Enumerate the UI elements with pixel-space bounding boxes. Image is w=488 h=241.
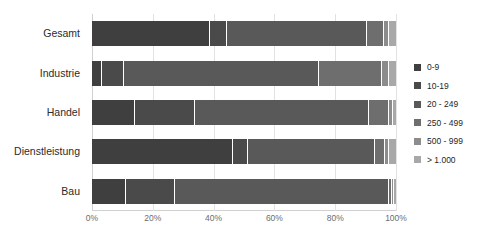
bar-segment — [210, 21, 227, 46]
bar-row — [92, 21, 396, 46]
legend-item[interactable]: > 1.000 — [414, 151, 488, 170]
bar-row — [92, 139, 396, 164]
value-axis: 0%20%40%60%80%100% — [92, 214, 396, 230]
legend-swatch-icon — [414, 156, 421, 163]
bar-segment — [382, 61, 389, 86]
legend-swatch-icon — [414, 82, 421, 89]
legend-swatch-icon — [414, 119, 421, 126]
x-axis-tick-label: 100% — [385, 214, 407, 223]
bar-segment — [135, 100, 195, 125]
bar-segment — [92, 179, 126, 204]
bar-segment — [375, 139, 385, 164]
bar-segment — [367, 21, 384, 46]
bar-segment — [319, 61, 382, 86]
legend-item[interactable]: 500 - 999 — [414, 132, 488, 151]
legend-item[interactable]: 10-19 — [414, 77, 488, 96]
category-label: Industrie — [0, 68, 80, 79]
legend-label: 10-19 — [427, 82, 449, 91]
legend-label: > 1.000 — [427, 156, 456, 165]
bar-segment — [233, 139, 248, 164]
bar-segment — [393, 100, 396, 125]
bar-segment — [389, 139, 396, 164]
category-label: Bau — [0, 186, 80, 197]
legend-item[interactable]: 20 - 249 — [414, 95, 488, 114]
category-label: Dienstleistung — [0, 146, 80, 157]
bar-row — [92, 100, 396, 125]
x-axis-tick-label: 20% — [144, 214, 161, 223]
legend-label: 250 - 499 — [427, 119, 463, 128]
x-axis-tick-label: 60% — [266, 214, 283, 223]
bar-segment — [92, 61, 102, 86]
plot-area — [92, 14, 396, 211]
bar-segment — [92, 139, 233, 164]
x-axis-tick-label: 80% — [327, 214, 344, 223]
legend-label: 500 - 999 — [427, 137, 463, 146]
gridline — [396, 14, 397, 211]
stacked-bar-chart: GesamtIndustrieHandelDienstleistungBau 0… — [0, 0, 488, 241]
legend-swatch-icon — [414, 101, 421, 108]
legend-swatch-icon — [414, 64, 421, 71]
bar-segment — [92, 21, 210, 46]
legend-swatch-icon — [414, 138, 421, 145]
x-axis-tick-label: 0% — [86, 214, 98, 223]
bar-row — [92, 61, 396, 86]
category-label: Gesamt — [0, 28, 80, 39]
bar-segment — [227, 21, 367, 46]
bar-segment — [126, 179, 175, 204]
category-label: Handel — [0, 107, 80, 118]
bar-segment — [195, 100, 369, 125]
bar-segment — [389, 61, 396, 86]
bar-segment — [124, 61, 319, 86]
legend-item[interactable]: 0-9 — [414, 58, 488, 77]
bar-segment — [102, 61, 124, 86]
bar-segment — [175, 179, 389, 204]
bar-segment — [394, 179, 396, 204]
legend-label: 20 - 249 — [427, 100, 458, 109]
bar-segment — [389, 21, 396, 46]
x-axis-tick-label: 40% — [205, 214, 222, 223]
bar-segment — [92, 100, 135, 125]
legend-item[interactable]: 250 - 499 — [414, 114, 488, 133]
category-axis: GesamtIndustrieHandelDienstleistungBau — [0, 14, 86, 205]
bar-segment — [248, 139, 375, 164]
legend-label: 0-9 — [427, 63, 439, 72]
bar-segment — [369, 100, 389, 125]
bar-row — [92, 179, 396, 204]
chart-legend: 0-910-1920 - 249250 - 499500 - 999> 1.00… — [414, 58, 488, 169]
